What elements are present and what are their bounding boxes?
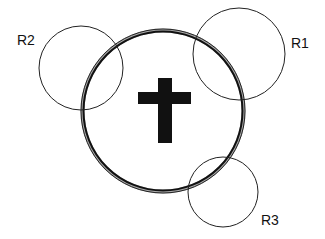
diagram-canvas: R1 R2 R3 — [0, 0, 325, 239]
region-circle-r2 — [39, 26, 123, 110]
region-label-r3: R3 — [261, 212, 279, 228]
cross-icon — [138, 78, 191, 143]
region-label-r1: R1 — [291, 35, 309, 51]
region-label-r2: R2 — [17, 32, 35, 48]
